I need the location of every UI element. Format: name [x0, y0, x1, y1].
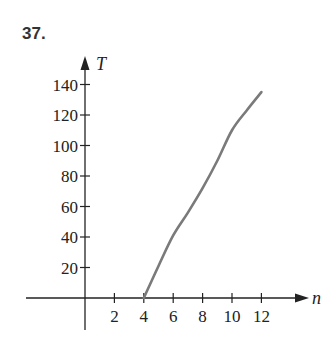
x-axis-label: n	[312, 288, 321, 308]
x-axis-arrow-icon	[295, 294, 309, 303]
x-tick-label: 6	[169, 307, 178, 326]
y-tick-label: 120	[53, 106, 79, 125]
x-tick-label: 12	[253, 307, 270, 326]
y-axis-arrow-icon	[81, 56, 90, 70]
y-tick-label: 140	[53, 76, 79, 95]
y-tick-label: 20	[61, 259, 78, 278]
data-curve	[144, 92, 262, 298]
x-tick-label: 2	[110, 307, 119, 326]
y-tick-label: 100	[53, 137, 79, 156]
x-tick-label: 8	[198, 307, 207, 326]
y-tick-label: 80	[61, 167, 78, 186]
y-tick-label: 60	[61, 198, 78, 217]
x-tick-label: 4	[140, 307, 149, 326]
x-tick-label: 10	[224, 307, 241, 326]
chart: T n 20406080100120140 24681012	[0, 0, 333, 344]
y-axis-label: T	[96, 54, 108, 74]
y-tick-label: 40	[61, 228, 78, 247]
